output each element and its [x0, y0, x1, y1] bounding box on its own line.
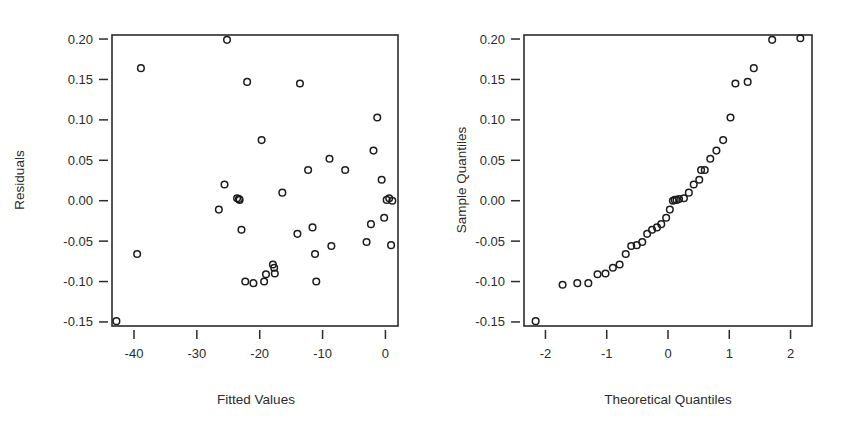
y-axis-tick-label: 0.10: [480, 112, 505, 127]
data-point: [690, 181, 697, 188]
data-points-group: [532, 35, 803, 325]
data-point: [639, 239, 646, 246]
data-point: [328, 243, 335, 250]
data-point: [305, 167, 312, 174]
data-point: [610, 265, 617, 272]
data-point: [686, 189, 693, 196]
data-point: [312, 251, 319, 258]
data-point: [238, 227, 245, 234]
data-point: [713, 147, 720, 154]
data-point: [342, 167, 349, 174]
data-point: [309, 224, 316, 231]
y-axis-tick-label: 0.05: [68, 153, 93, 168]
data-point: [297, 80, 304, 87]
data-point: [261, 278, 268, 285]
x-axis-tick-label: -1: [601, 346, 613, 361]
data-points-group: [113, 37, 396, 325]
y-axis-tick-label: -0.15: [475, 314, 505, 329]
data-point: [574, 280, 581, 287]
data-point: [707, 155, 714, 162]
data-point: [696, 176, 703, 183]
x-axis-tick-label: -40: [125, 346, 144, 361]
x-axis-tick-label: -10: [313, 346, 332, 361]
data-point: [622, 251, 629, 258]
y-axis-tick-label: -0.10: [63, 274, 93, 289]
figure-canvas: -40-30-20-100-0.15-0.10-0.050.000.050.10…: [0, 0, 846, 437]
y-axis-title: Residuals: [12, 150, 27, 210]
axes-frame: -2-1012-0.15-0.10-0.050.000.050.100.150.…: [475, 32, 812, 361]
data-point: [378, 176, 385, 183]
y-axis-tick-label: -0.15: [63, 314, 93, 329]
data-point: [113, 318, 120, 325]
x-axis-title: Fitted Values: [217, 392, 295, 407]
data-point: [250, 280, 257, 287]
data-point: [559, 281, 566, 288]
data-point: [388, 242, 395, 249]
data-point: [720, 137, 727, 144]
data-point: [727, 114, 734, 121]
normal-qq-svg: -2-1012-0.15-0.10-0.050.000.050.100.150.…: [423, 0, 846, 437]
data-point: [294, 231, 301, 238]
data-point: [368, 221, 375, 228]
data-point: [732, 80, 739, 87]
x-axis-tick-label: 0: [664, 346, 671, 361]
data-point: [216, 206, 223, 213]
x-axis-tick-label: 0: [382, 346, 389, 361]
data-point: [769, 37, 776, 44]
data-point: [224, 37, 231, 44]
data-point: [221, 181, 228, 188]
data-point: [313, 278, 320, 285]
y-axis-tick-label: 0.20: [480, 32, 505, 47]
y-axis-title: Sample Quantiles: [454, 126, 469, 233]
panel-normal-qq: -2-1012-0.15-0.10-0.050.000.050.100.150.…: [423, 0, 846, 437]
y-axis-tick-label: 0.00: [480, 193, 505, 208]
x-axis-tick-label: 2: [787, 346, 794, 361]
data-point: [797, 35, 804, 42]
data-point: [258, 137, 265, 144]
y-axis-tick-label: 0.15: [68, 72, 93, 87]
data-point: [532, 318, 539, 325]
axes-frame: -40-30-20-100-0.15-0.10-0.050.000.050.10…: [63, 32, 398, 361]
y-axis-tick-label: -0.05: [475, 234, 505, 249]
x-axis-tick-label: -30: [187, 346, 206, 361]
y-axis-tick-label: 0.05: [480, 153, 505, 168]
data-point: [381, 214, 388, 221]
data-point: [616, 261, 623, 268]
x-axis-tick-label: 1: [726, 346, 733, 361]
data-point: [263, 271, 270, 278]
data-point: [326, 155, 333, 162]
y-axis-tick-label: -0.05: [63, 234, 93, 249]
data-point: [279, 189, 286, 196]
data-point: [138, 65, 145, 72]
data-point: [585, 280, 592, 287]
data-point: [374, 114, 381, 121]
data-point: [134, 251, 141, 258]
data-point: [602, 270, 609, 277]
x-axis-tick-label: -2: [540, 346, 552, 361]
y-axis-tick-label: 0.20: [68, 32, 93, 47]
x-axis-tick-label: -20: [250, 346, 269, 361]
x-axis-title: Theoretical Quantiles: [604, 392, 732, 407]
y-axis-tick-label: -0.10: [475, 274, 505, 289]
data-point: [750, 65, 757, 72]
data-point: [244, 79, 251, 86]
panel-residuals-vs-fitted: -40-30-20-100-0.15-0.10-0.050.000.050.10…: [0, 0, 423, 437]
data-point: [663, 214, 670, 221]
y-axis-tick-label: 0.00: [68, 193, 93, 208]
data-point: [594, 271, 601, 278]
data-point: [370, 147, 377, 154]
data-point: [744, 79, 751, 86]
residuals-vs-fitted-svg: -40-30-20-100-0.15-0.10-0.050.000.050.10…: [0, 0, 423, 437]
data-point: [242, 278, 249, 285]
data-point: [667, 206, 674, 213]
y-axis-tick-label: 0.15: [480, 72, 505, 87]
y-axis-tick-label: 0.10: [68, 112, 93, 127]
data-point: [363, 239, 370, 246]
